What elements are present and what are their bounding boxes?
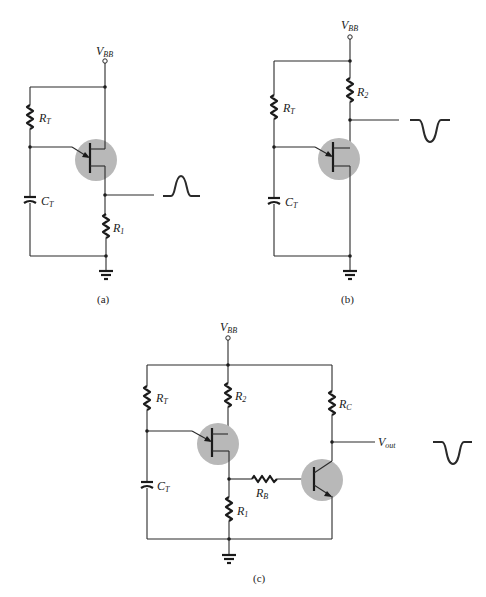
resistor-r2-b: [347, 78, 353, 102]
output-pulse-a: [163, 176, 200, 196]
vbb-terminal-b: [348, 35, 352, 39]
ct-label-b: CT: [285, 195, 298, 210]
resistor-rt-c: [144, 386, 150, 410]
r1-label-a: R1: [112, 221, 124, 236]
ct-label-a: CT: [41, 194, 54, 209]
resistor-r2-c: [225, 383, 231, 407]
output-pulse-b: [410, 120, 450, 142]
circuit-a: VBB RT CT R1: [24, 44, 200, 306]
vbb-terminal-c: [226, 336, 230, 340]
resistor-rc-c: [329, 391, 335, 415]
ct-label-c: CT: [157, 479, 170, 494]
ujt-b: [318, 138, 360, 180]
ground-icon-b: [343, 271, 357, 279]
rt-label-a: RT: [38, 111, 51, 126]
resistor-r1-c: [226, 497, 232, 521]
ujt-c: [197, 423, 239, 465]
vbb-terminal-a: [103, 59, 107, 63]
ground-icon-a: [99, 271, 113, 279]
vbb-label-b: VBB: [341, 18, 358, 33]
rt-label-c: RT: [155, 391, 168, 406]
resistor-rt-a: [27, 105, 33, 129]
vbb-label-a: VBB: [96, 44, 113, 59]
r1-label-c: R1: [236, 504, 248, 519]
caption-b: (b): [341, 293, 354, 306]
rc-label-c: RC: [338, 397, 352, 412]
rb-label-c: RB: [255, 486, 268, 501]
circuit-c: VBB RT CT R2 RB: [141, 320, 472, 585]
caption-a: (a): [97, 293, 110, 306]
caption-c: (c): [253, 572, 266, 585]
resistor-r1-a: [103, 214, 109, 238]
resistor-rt-b: [271, 95, 277, 119]
npn-transistor-c: [301, 459, 343, 501]
ujt-a: [75, 139, 117, 181]
vbb-label-c: VBB: [220, 320, 237, 335]
ground-icon-c: [222, 555, 236, 563]
output-pulse-c: [433, 442, 472, 464]
rt-label-b: RT: [282, 101, 295, 116]
circuit-figure: VBB RT CT R1: [0, 0, 486, 597]
r2-label-c: R2: [234, 389, 246, 404]
vout-label-c: Vout: [378, 435, 396, 450]
resistor-rb-c: [252, 476, 277, 482]
r2-label-b: R2: [356, 85, 368, 100]
circuit-b: VBB RT CT R2: [268, 18, 450, 306]
